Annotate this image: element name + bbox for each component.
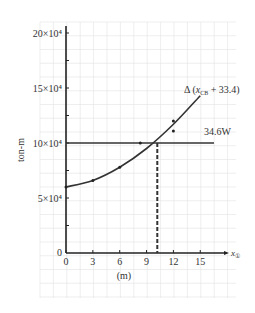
line-label-34-6W: 34.6W [204, 126, 232, 137]
ticks: 036912155×10⁴10×10⁴15×10⁴20×10⁴0 [33, 28, 205, 267]
x-axis-symbol-label: x① [230, 248, 240, 259]
y-zero-label: 0 [57, 247, 62, 258]
chart: 036912155×10⁴10×10⁴15×10⁴20×10⁴0 Δ (xCB … [0, 0, 255, 313]
data-point-marker [65, 186, 68, 189]
grid [40, 22, 236, 298]
y-tick-label: 15×10⁴ [33, 83, 63, 94]
x-tick-label: 15 [195, 256, 205, 267]
data-point-marker [118, 166, 121, 169]
y-tick-label: 10×10⁴ [33, 138, 63, 149]
x-tick-label: 9 [144, 256, 149, 267]
series [65, 96, 215, 253]
x-tick-label: 12 [168, 256, 178, 267]
x-tick-label: 3 [90, 256, 95, 267]
data-point-marker [91, 179, 94, 182]
y-axis-label: ton-m [15, 138, 26, 162]
x-axis-unit-label: (m) [117, 270, 131, 282]
y-tick-label: 5×10⁴ [38, 193, 63, 204]
data-point-marker [139, 142, 142, 145]
curve-label: Δ (xCB + 33.4) [184, 84, 240, 96]
y-tick-label: 20×10⁴ [33, 28, 63, 39]
x-axis-arrow-icon [224, 251, 229, 255]
x-tick-label: 0 [64, 256, 69, 267]
data-point-marker [172, 120, 175, 123]
x-tick-label: 6 [117, 256, 122, 267]
data-point-marker [172, 129, 175, 132]
